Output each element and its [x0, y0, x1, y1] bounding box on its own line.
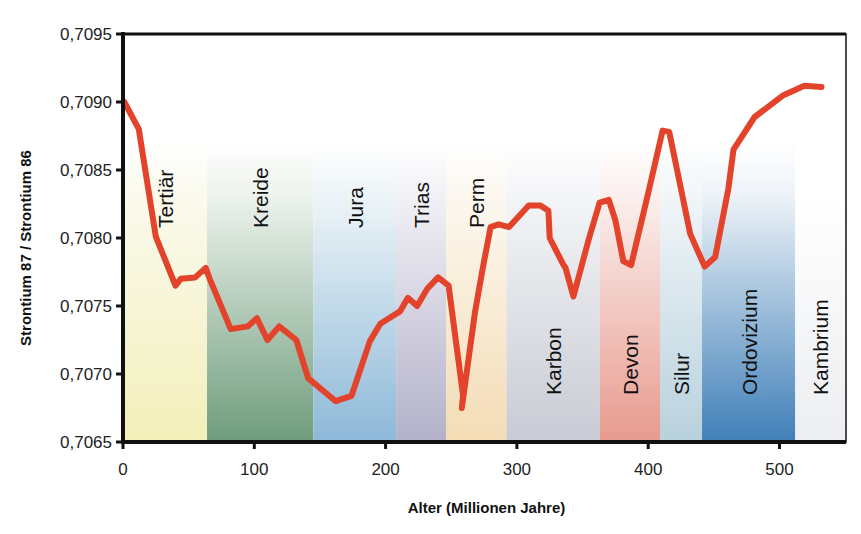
x-tick-label: 100 — [240, 460, 268, 479]
x-axis-ticks: 0100200300400500 — [118, 442, 793, 479]
band-label-kambrium: Kambrium — [809, 299, 832, 395]
y-tick-label: 0,7085 — [60, 161, 112, 180]
band-label-perm: Perm — [465, 178, 488, 228]
strontium-isotope-chart: TertiärKreideJuraTriasPermKarbonDevonSil… — [0, 0, 861, 534]
x-tick-label: 400 — [634, 460, 662, 479]
y-tick-label: 0,7070 — [60, 365, 112, 384]
band-label-devon: Devon — [619, 334, 642, 395]
band-label-jura: Jura — [344, 187, 367, 228]
y-tick-label: 0,7075 — [60, 297, 112, 316]
y-tick-label: 0,7090 — [60, 93, 112, 112]
band-label-ordovizium: Ordovizium — [738, 289, 761, 395]
x-tick-label: 200 — [371, 460, 399, 479]
band-label-trias: Trias — [410, 182, 433, 228]
band-label-tertiär: Tertiär — [154, 170, 177, 228]
x-axis-title: Alter (Millionen Jahre) — [408, 499, 566, 516]
band-kambrium — [795, 140, 845, 442]
y-axis-ticks: 0,70650,70700,70750,70800,70850,70900,70… — [60, 25, 123, 452]
y-tick-label: 0,7080 — [60, 229, 112, 248]
x-tick-label: 300 — [503, 460, 531, 479]
y-axis-title: Strontium 87 / Strontium 86 — [17, 150, 34, 346]
band-label-kreide: Kreide — [249, 167, 272, 228]
x-tick-label: 500 — [765, 460, 793, 479]
x-tick-label: 0 — [118, 460, 127, 479]
band-label-karbon: Karbon — [542, 327, 565, 395]
y-tick-label: 0,7065 — [60, 433, 112, 452]
band-label-silur: Silur — [670, 353, 693, 395]
band-karbon — [506, 140, 599, 442]
y-tick-label: 0,7095 — [60, 25, 112, 44]
